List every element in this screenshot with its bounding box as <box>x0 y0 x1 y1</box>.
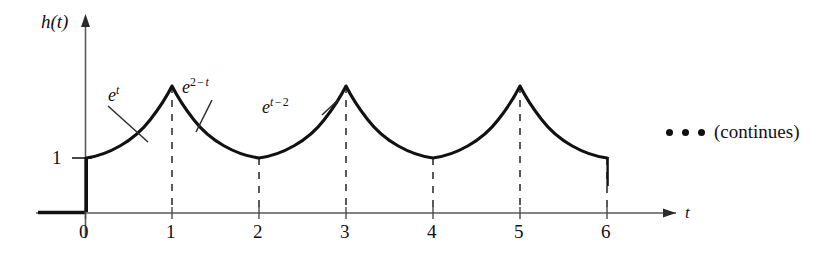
curve-label-e-t-minus-2: et−2 <box>262 98 289 116</box>
x-tick-label-5: 5 <box>514 222 524 241</box>
continues-annotation: (continues) <box>666 121 799 143</box>
curve-label-e-t-exponent: t <box>116 83 119 97</box>
leader-line-e-2-minus-t <box>196 100 212 132</box>
dashed-guide-lines <box>172 86 607 207</box>
curve-label-e-t: et <box>108 86 119 104</box>
curve-label-e-t-minus-2-exp-num: 2 <box>283 95 289 109</box>
minus-icon: − <box>273 95 283 109</box>
continues-label: (continues) <box>714 121 799 143</box>
x-axis-label: t <box>685 204 690 221</box>
curve-label-e-t-minus-2-base: e <box>262 97 270 117</box>
y-tick-label-1: 1 <box>52 148 62 167</box>
dot-icon <box>682 129 689 136</box>
x-tick-label-2: 2 <box>253 222 263 241</box>
x-tick-label-0: 0 <box>79 222 89 241</box>
x-tick-label-1: 1 <box>166 222 176 241</box>
dot-icon <box>698 129 705 136</box>
label-leader-lines <box>108 100 338 142</box>
curve-label-e-2-minus-t: e2−t <box>182 78 209 96</box>
figure-container: h(t) 1 t 0 1 2 3 4 5 6 et e2−t et−2 (con… <box>0 0 839 273</box>
ellipsis-dots-icon <box>666 129 705 136</box>
dot-icon <box>666 129 673 136</box>
x-tick-label-3: 3 <box>340 222 350 241</box>
curve-label-e-2-minus-t-base: e <box>182 77 190 97</box>
x-tick-label-6: 6 <box>601 222 611 241</box>
curve-label-e-t-base: e <box>108 85 116 105</box>
leader-line-e-t <box>108 106 148 142</box>
x-axis <box>36 209 676 218</box>
x-tick-label-4: 4 <box>427 222 437 241</box>
y-axis-label: h(t) <box>41 12 68 31</box>
curve-label-e-2-minus-t-exp-var: t <box>205 75 208 89</box>
